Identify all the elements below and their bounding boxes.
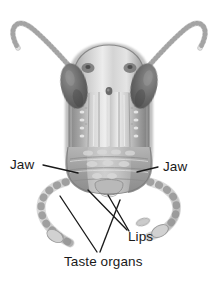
label-jaw-right: Jaw xyxy=(163,160,187,174)
diagram-canvas xyxy=(0,0,218,284)
leader-lips-a xyxy=(88,190,127,230)
leader-taste-b xyxy=(100,200,120,252)
maxillary-palp-left xyxy=(41,182,70,245)
labial-palp-tip xyxy=(135,217,150,228)
label-lips: Lips xyxy=(128,230,153,244)
insect-head-diagram: Jaw Jaw Lips Taste organs xyxy=(0,0,218,284)
labrum xyxy=(95,180,123,196)
label-jaw-left: Jaw xyxy=(10,158,34,172)
clypeus-mandible-block xyxy=(65,147,153,197)
label-taste-organs: Taste organs xyxy=(64,255,143,269)
